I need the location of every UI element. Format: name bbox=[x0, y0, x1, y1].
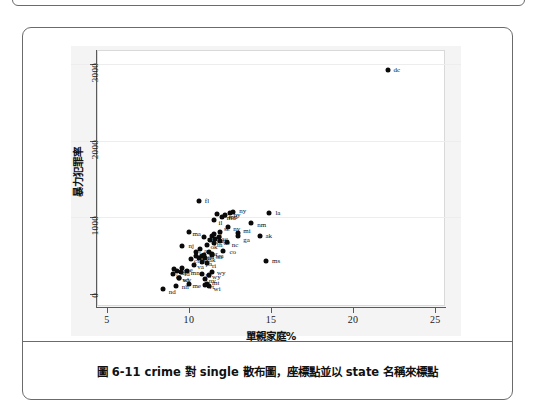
scatter-point bbox=[201, 234, 206, 239]
gridline bbox=[71, 64, 461, 65]
scatter-point bbox=[201, 253, 206, 258]
scatter-point-label: wi bbox=[214, 285, 221, 293]
x-tick-mark bbox=[353, 307, 354, 313]
x-tick-mark bbox=[107, 307, 108, 313]
scatter-point bbox=[177, 276, 182, 281]
scatter-point-label: ga bbox=[243, 236, 250, 244]
figure-caption-text: 圖 6-11 crime 對 single 散布圖，座標點並以 state 名稱… bbox=[97, 363, 438, 379]
x-tick-label: 10 bbox=[184, 314, 195, 325]
scatter-point bbox=[208, 237, 213, 242]
scatter-point-label: nj bbox=[188, 242, 193, 250]
scatter-point bbox=[267, 210, 272, 215]
scatter-point-label: ak bbox=[266, 232, 273, 240]
scatter-point bbox=[193, 250, 198, 255]
figure-container: 0100020003000 510152025 dcfllanymdilnmnv… bbox=[22, 27, 513, 400]
plot-panel: 0100020003000 510152025 dcfllanymdilnmnv… bbox=[71, 46, 461, 336]
y-tick-label: 1000 bbox=[90, 216, 100, 246]
scatter-point-label: nd bbox=[169, 288, 176, 296]
scatter-point-label: me bbox=[192, 282, 201, 290]
scatter-point-label: fl bbox=[205, 197, 209, 205]
scatter-point bbox=[173, 283, 178, 288]
scatter-point bbox=[249, 220, 254, 225]
scatter-point bbox=[186, 230, 191, 235]
gridline bbox=[71, 141, 461, 142]
scatter-point bbox=[214, 212, 219, 217]
x-tick-mark bbox=[271, 307, 272, 313]
x-tick-mark bbox=[435, 307, 436, 313]
x-tick-label: 20 bbox=[348, 314, 359, 325]
plot-area bbox=[97, 50, 445, 306]
scatter-point-label: ma bbox=[192, 230, 201, 238]
scatter-point-label: co bbox=[229, 248, 236, 256]
scatter-point bbox=[160, 286, 165, 291]
x-tick-label: 15 bbox=[266, 314, 277, 325]
gridline bbox=[71, 217, 461, 218]
scatter-point bbox=[186, 282, 191, 287]
scatter-point bbox=[196, 199, 201, 204]
scatter-point-label: mn bbox=[191, 269, 200, 277]
figure-caption: 圖 6-11 crime 對 single 散布圖，座標點並以 state 名稱… bbox=[23, 341, 512, 400]
y-tick-label: 2000 bbox=[90, 140, 100, 170]
scatter-point bbox=[203, 277, 208, 282]
scatter-point bbox=[203, 283, 208, 288]
scatter-point-label: oh bbox=[207, 253, 214, 261]
scatter-point bbox=[185, 268, 190, 273]
y-axis-title: 暴力犯罪率 bbox=[70, 132, 85, 212]
scatter-point-label: la bbox=[275, 209, 280, 217]
scatter-point bbox=[211, 218, 216, 223]
scatter-point bbox=[257, 233, 262, 238]
scatter-point bbox=[205, 243, 210, 248]
scatter-point bbox=[385, 67, 390, 72]
scatter-point bbox=[206, 272, 211, 277]
scatter-point-label: il bbox=[219, 219, 223, 227]
top-partial-frame bbox=[12, 0, 525, 6]
scatter-point-label: nm bbox=[257, 221, 266, 229]
scatter-point bbox=[188, 257, 193, 262]
y-tick-label: 0 bbox=[90, 293, 100, 323]
x-tick-label: 5 bbox=[104, 314, 109, 325]
scatter-point-label: dc bbox=[394, 66, 401, 74]
scatter-point bbox=[180, 243, 185, 248]
scatter-point-label: fl bbox=[214, 238, 218, 246]
y-tick-label: 3000 bbox=[90, 63, 100, 93]
scatter-point-label: ms bbox=[272, 257, 280, 265]
x-tick-label: 25 bbox=[430, 314, 441, 325]
x-tick-mark bbox=[189, 307, 190, 313]
scatter-point-label: sc bbox=[222, 235, 228, 243]
scatter-point bbox=[236, 234, 241, 239]
scatter-point-label: md bbox=[229, 213, 238, 221]
scatter-point-label: wy bbox=[212, 273, 221, 281]
scatter-point bbox=[175, 268, 180, 273]
scatter-point bbox=[264, 258, 269, 263]
scatter-point bbox=[223, 212, 228, 217]
scatter-point-label: sc bbox=[224, 225, 230, 233]
scatter-point-label: mi bbox=[243, 227, 250, 235]
